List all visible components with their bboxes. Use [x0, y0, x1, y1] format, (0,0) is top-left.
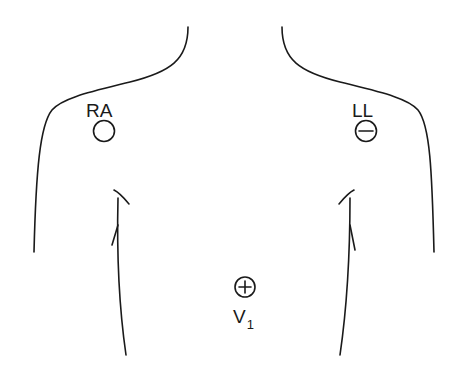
right-axilla-fold — [350, 225, 355, 250]
ra-electrode-icon — [94, 121, 115, 142]
v1-label-subscript: 1 — [247, 317, 254, 332]
v1-label: V1 — [233, 307, 254, 326]
left-chest-line — [118, 198, 126, 355]
right-axilla — [339, 190, 354, 204]
ll-label: LL — [352, 101, 373, 120]
left-axilla — [114, 190, 129, 204]
v1-label-main: V — [233, 306, 246, 327]
ra-label: RA — [86, 101, 112, 120]
right-shoulder-outline — [282, 27, 434, 252]
right-chest-line — [340, 198, 350, 355]
torso-outline — [0, 0, 462, 377]
